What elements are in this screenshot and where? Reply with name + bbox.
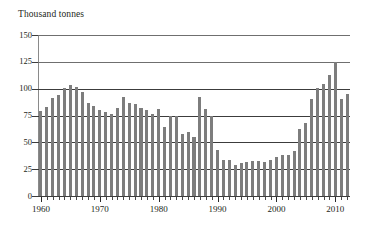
x-axis-labels: 196019701980199020002010 — [0, 204, 365, 220]
x-tick-label-1970: 1970 — [91, 204, 109, 215]
bar — [104, 112, 107, 196]
y-tick-mark-25 — [32, 169, 38, 170]
bar — [110, 114, 113, 196]
x-tick-1969 — [94, 197, 95, 200]
x-tick-2010 — [335, 197, 336, 202]
x-tick-1975 — [129, 197, 130, 200]
x-axis-ticks — [38, 197, 350, 202]
bar — [134, 104, 137, 196]
bar — [281, 155, 284, 196]
x-tick-2012 — [347, 197, 348, 200]
x-tick-2008 — [324, 197, 325, 200]
x-tick-1967 — [82, 197, 83, 200]
bar — [310, 99, 313, 196]
y-tick-mark-100 — [32, 89, 38, 90]
x-tick-1977 — [141, 197, 142, 200]
x-tick-1966 — [76, 197, 77, 200]
x-tick-1972 — [112, 197, 113, 200]
x-tick-1991 — [223, 197, 224, 200]
x-tick-1982 — [170, 197, 171, 200]
x-tick-2002 — [288, 197, 289, 200]
x-tick-1999 — [271, 197, 272, 200]
bar — [322, 84, 325, 196]
bar — [92, 106, 95, 196]
x-tick-1992 — [229, 197, 230, 200]
bar — [87, 103, 90, 196]
y-tick-mark-0 — [32, 196, 38, 197]
x-tick-label-1980: 1980 — [150, 204, 168, 215]
bar — [346, 94, 349, 196]
bar — [175, 116, 178, 197]
x-tick-1997 — [259, 197, 260, 200]
x-tick-1964 — [64, 197, 65, 200]
bar — [216, 150, 219, 196]
x-tick-2004 — [300, 197, 301, 200]
x-tick-1984 — [182, 197, 183, 200]
plot-area — [38, 35, 350, 196]
x-tick-label-2000: 2000 — [267, 204, 285, 215]
x-tick-1965 — [70, 197, 71, 200]
bar — [116, 108, 119, 196]
y-axis-labels: 0255075100125150 — [0, 0, 32, 229]
x-tick-1995 — [247, 197, 248, 200]
x-tick-1974 — [123, 197, 124, 200]
y-tick-mark-125 — [32, 62, 38, 63]
bar-series — [38, 35, 350, 196]
x-tick-1962 — [53, 197, 54, 200]
x-tick-1988 — [206, 197, 207, 200]
bar — [298, 129, 301, 196]
bar — [57, 95, 60, 196]
y-tick-label-150: 150 — [4, 31, 32, 40]
x-tick-1971 — [106, 197, 107, 200]
bar — [122, 97, 125, 196]
bar — [340, 99, 343, 196]
bar — [228, 160, 231, 196]
bar — [145, 110, 148, 196]
bar — [293, 151, 296, 196]
bar — [234, 165, 237, 196]
x-tick-1989 — [212, 197, 213, 200]
x-tick-1961 — [47, 197, 48, 200]
bar — [39, 111, 42, 196]
x-tick-2005 — [306, 197, 307, 200]
bar — [304, 123, 307, 196]
y-tick-label-50: 50 — [4, 138, 32, 147]
bar — [198, 97, 201, 196]
bar — [251, 161, 254, 196]
x-tick-2006 — [312, 197, 313, 200]
bar — [222, 160, 225, 196]
y-tick-label-0: 0 — [4, 192, 32, 201]
y-tick-mark-150 — [32, 35, 38, 36]
x-tick-1973 — [117, 197, 118, 200]
bar — [275, 157, 278, 196]
x-tick-1996 — [253, 197, 254, 200]
bar — [81, 92, 84, 196]
x-tick-1968 — [88, 197, 89, 200]
bar — [128, 103, 131, 196]
bar — [51, 98, 54, 196]
bar — [169, 116, 172, 197]
x-tick-1980 — [159, 197, 160, 202]
bar — [157, 109, 160, 196]
x-tick-2011 — [341, 197, 342, 200]
y-tick-label-125: 125 — [4, 57, 32, 66]
bar — [192, 137, 195, 196]
x-tick-label-1960: 1960 — [32, 204, 50, 215]
y-tick-label-100: 100 — [4, 84, 32, 93]
bar — [328, 75, 331, 196]
y-tick-label-25: 25 — [4, 165, 32, 174]
x-tick-1970 — [100, 197, 101, 202]
chart-figure: Thousand tonnes 0255075100125150 1960197… — [0, 0, 365, 229]
x-tick-label-1990: 1990 — [209, 204, 227, 215]
bar — [269, 160, 272, 196]
bar — [316, 88, 319, 196]
bar — [263, 162, 266, 196]
x-tick-1986 — [194, 197, 195, 200]
bar — [240, 163, 243, 196]
bar — [69, 85, 72, 196]
x-tick-1963 — [59, 197, 60, 200]
x-tick-1985 — [188, 197, 189, 200]
bar — [210, 116, 213, 197]
x-tick-2007 — [318, 197, 319, 200]
bar — [181, 134, 184, 196]
